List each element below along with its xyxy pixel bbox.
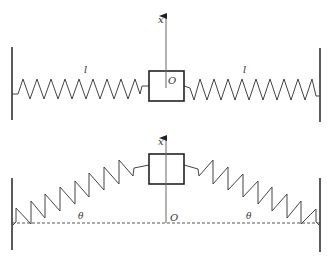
left-angle-label: θ <box>78 211 84 221</box>
bottom-panel: x O θ θ <box>12 136 320 252</box>
spring-mass-diagram: x O l l x O θ θ <box>0 0 327 264</box>
x-axis-label: x <box>158 136 164 147</box>
top-panel: x O l l <box>12 14 320 122</box>
origin-label: O <box>168 75 176 86</box>
x-axis-label: x <box>158 14 164 25</box>
left-spring-length-label: l <box>84 64 87 75</box>
right-angle-label: θ <box>246 211 252 221</box>
right-spring-stretched <box>184 160 320 226</box>
origin-label: O <box>170 212 178 223</box>
right-spring-length-label: l <box>243 64 246 75</box>
right-spring <box>184 79 320 100</box>
left-spring <box>12 79 149 99</box>
